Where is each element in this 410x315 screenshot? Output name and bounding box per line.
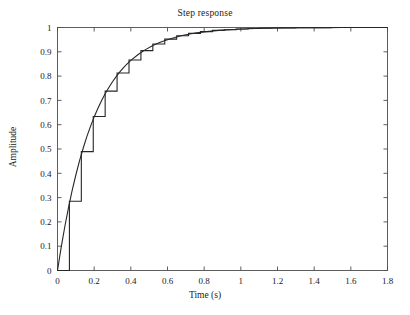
x-tick-label: 1.4 [309, 276, 321, 286]
x-tick-label: 0.2 [89, 276, 100, 286]
x-tick-label: 0.8 [199, 276, 211, 286]
x-tick-label: 0.4 [125, 276, 137, 286]
x-tick-label: 1.2 [272, 276, 283, 286]
x-tick-label: 1.8 [382, 276, 394, 286]
x-axis-tick-labels: 00.20.40.60.811.21.41.61.8 [55, 276, 393, 286]
x-tick-label: 0 [55, 276, 60, 286]
y-tick-label: 0.9 [40, 47, 52, 57]
y-tick-label: 0.1 [40, 241, 51, 251]
y-tick-label: 1 [47, 23, 52, 33]
series-discrete-zero-order-hold [58, 28, 388, 271]
y-axis-tick-labels: 00.10.20.30.40.50.60.70.80.91 [40, 23, 52, 276]
y-tick-label: 0.5 [40, 144, 52, 154]
x-tick-label: 1 [239, 276, 244, 286]
x-axis-ticks [58, 28, 388, 271]
x-tick-label: 1.6 [345, 276, 357, 286]
y-tick-label: 0.8 [40, 71, 52, 81]
y-tick-label: 0.7 [40, 96, 52, 106]
x-tick-label: 0.6 [162, 276, 174, 286]
plot-canvas: 00.20.40.60.811.21.41.61.8 00.10.20.30.4… [0, 0, 410, 315]
y-tick-label: 0.4 [40, 169, 52, 179]
y-tick-label: 0 [47, 266, 52, 276]
axes-frame [58, 28, 388, 271]
y-axis-ticks [58, 28, 388, 271]
y-tick-label: 0.3 [40, 193, 52, 203]
y-tick-label: 0.2 [40, 217, 51, 227]
y-tick-label: 0.6 [40, 120, 52, 130]
data-series-layer [58, 28, 388, 271]
series-continuous-step-response [58, 28, 388, 271]
figure-step-response: Step response Amplitude Time (s) 00.20.4… [0, 0, 410, 315]
